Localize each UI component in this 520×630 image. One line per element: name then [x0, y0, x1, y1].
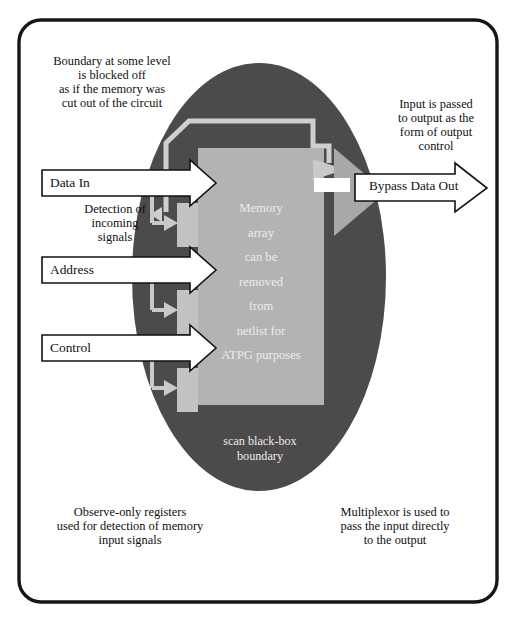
- observe-register-box-2: [177, 290, 198, 334]
- memory-array-text: Memory array can be removed from netlist…: [198, 196, 324, 368]
- scan-blackbox-caption: scan black-box boundary: [189, 434, 331, 463]
- memory-output-path: [314, 178, 350, 192]
- input-label-address: Address: [50, 262, 170, 277]
- diagram-canvas: Boundary at some level is blocked off as…: [0, 0, 520, 630]
- note-detection-of-incoming-signals: Detection of incoming signals: [47, 203, 183, 245]
- input-label-data-in: Data In: [50, 175, 170, 190]
- note-top-left: Boundary at some level is blocked off as…: [22, 55, 202, 111]
- note-multiplexor: Multiplexor is used to pass the input di…: [305, 506, 485, 548]
- output-label-bypass-data-out: Bypass Data Out: [369, 179, 499, 194]
- note-top-right: Input is passed to output as the form of…: [374, 98, 498, 154]
- observe-register-box-3: [177, 368, 198, 412]
- input-label-control: Control: [50, 340, 170, 355]
- note-observe-only-registers: Observe-only registers used for detectio…: [22, 506, 238, 548]
